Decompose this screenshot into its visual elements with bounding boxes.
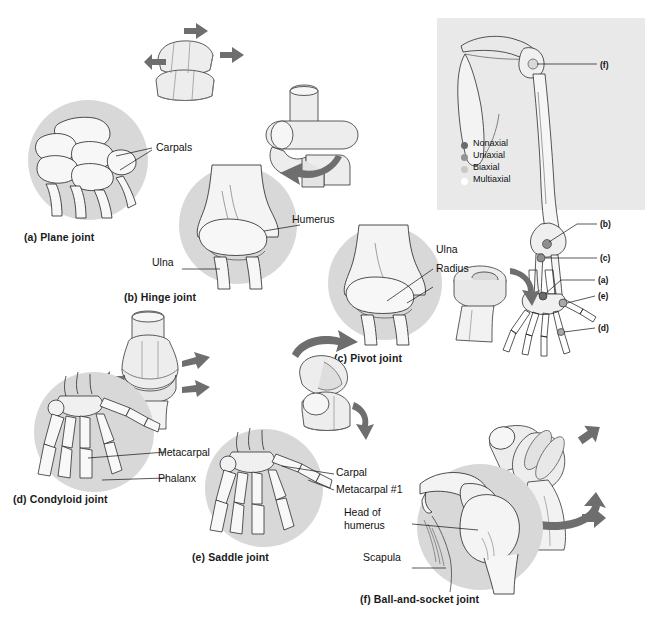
inset-callout-a: (a): [598, 275, 608, 285]
caption-ball-and-socket-joint: (f) Ball-and-socket joint: [360, 593, 479, 605]
label-radius: Radius: [436, 262, 469, 274]
legend-dot-multiaxial: [461, 178, 468, 185]
pivot-joint-model: [448, 262, 538, 347]
inset-callout-d: (d): [598, 323, 609, 333]
legend-dot-nonaxial: [461, 142, 468, 149]
label-head-of-humerus-line2: humerus: [344, 519, 385, 531]
label-humerus: Humerus: [292, 213, 335, 225]
condyloid-joint-bone-illustration: [22, 370, 172, 500]
legend-label-multiaxial: Multiaxial: [473, 174, 511, 184]
label-head-of-humerus-line1: Head of: [344, 506, 381, 518]
label-carpal: Carpal: [336, 466, 367, 478]
legend-dot-biaxial: [461, 166, 468, 173]
saddle-joint-bone-illustration: [192, 428, 342, 553]
caption-hinge-joint: (b) Hinge joint: [124, 291, 196, 303]
caption-saddle-joint: (e) Saddle joint: [192, 551, 269, 563]
label-phalanx: Phalanx: [158, 472, 196, 484]
label-metacarpal-1: Metacarpal #1: [336, 483, 403, 495]
arm-skeleton-illustration: [437, 18, 645, 288]
label-scapula: Scapula: [363, 551, 401, 563]
pivot-joint-bone-illustration: [315, 225, 455, 345]
legend-dot-uniaxial: [461, 154, 468, 161]
plane-joint-bone-illustration: [16, 100, 161, 225]
label-ulna-pivot: Ulna: [436, 243, 458, 255]
label-ulna-hinge: Ulna: [152, 256, 174, 268]
legend-label-biaxial: Biaxial: [473, 162, 500, 172]
plane-joint-model: [140, 18, 255, 108]
inset-callout-b: (b): [600, 219, 611, 229]
hinge-joint-bone-illustration: [168, 165, 308, 290]
inset-callout-f: (f): [600, 60, 609, 70]
joint-types-figure: (f) (b) (c) (a) (e) (d) Nonaxial Uniaxia…: [0, 0, 659, 622]
caption-condyloid-joint: (d) Condyloid joint: [13, 493, 108, 505]
caption-plane-joint: (a) Plane joint: [24, 231, 94, 243]
label-head-of-humerus: Head of humerus: [344, 506, 385, 531]
inset-callout-e: (e): [598, 291, 608, 301]
legend-label-nonaxial: Nonaxial: [473, 138, 508, 148]
pivot-joint-arrow: [510, 268, 540, 306]
label-carpals: Carpals: [156, 141, 192, 153]
inset-callout-c: (c): [600, 253, 610, 263]
legend-label-uniaxial: Uniaxial: [473, 150, 505, 160]
ball-and-socket-bone-illustration: [402, 462, 557, 597]
